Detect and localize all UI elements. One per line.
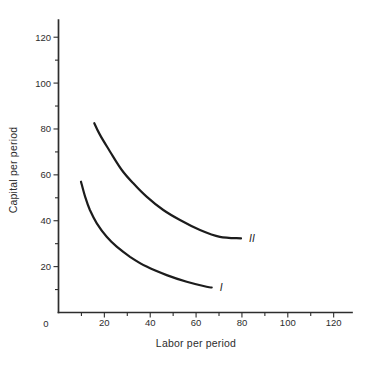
isoquant-curve-II (94, 123, 241, 238)
y-tick-label: 120 (35, 32, 51, 43)
y-tick-label: 60 (40, 169, 51, 180)
y-tick-label: 100 (35, 78, 51, 89)
y-tick-label: 40 (40, 215, 51, 226)
chart-canvas: 20406080100120020406080100120III (0, 0, 369, 367)
x-tick-label: 60 (191, 317, 202, 328)
x-axis-title: Labor per period (156, 337, 236, 349)
origin-tick-label: 0 (43, 318, 48, 329)
x-tick-label: 100 (280, 317, 296, 328)
curve-label-II: II (249, 232, 255, 244)
x-tick-label: 20 (99, 317, 110, 328)
curve-label-I: I (220, 281, 223, 293)
x-tick-label: 120 (326, 317, 342, 328)
y-axis-title: Capital per period (7, 127, 19, 213)
x-tick-label: 40 (145, 317, 156, 328)
y-tick-label: 20 (40, 261, 51, 272)
isoquant-figure: 20406080100120020406080100120III Capital… (0, 0, 369, 367)
x-tick-label: 80 (237, 317, 248, 328)
y-tick-label: 80 (40, 123, 51, 134)
